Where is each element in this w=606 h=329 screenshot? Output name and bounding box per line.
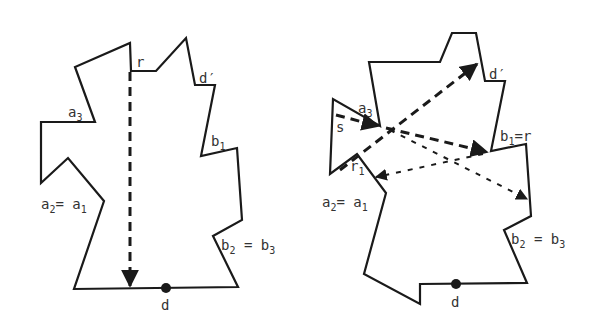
- right-label-d: d: [451, 294, 459, 310]
- left-label-a3: a3: [68, 104, 82, 123]
- right-ray-b1-to-r1: [376, 154, 483, 177]
- left-label-r: r: [136, 54, 144, 70]
- left-label-b2-b3: b2 = b3: [221, 237, 275, 256]
- left-figure: r d′ a3 b1 a2= a1 b2 = b3 d: [41, 38, 275, 313]
- left-label-d-prime: d′: [199, 70, 216, 86]
- right-label-a3: a3: [358, 100, 372, 119]
- left-label-d: d: [161, 297, 169, 313]
- right-label-a2-a1: a2= a1: [322, 194, 368, 213]
- left-label-a2-a1: a2= a1: [41, 196, 87, 215]
- right-ray-a3-to-b1: [386, 128, 487, 152]
- right-ray-r1-to-d-prime: [340, 64, 477, 170]
- left-point-d: [161, 283, 171, 293]
- right-figure: d′ a3 s b1=r r1 a2= a1 b2 = b3 d: [322, 33, 565, 310]
- diagram-canvas: r d′ a3 b1 a2= a1 b2 = b3 d d′ a3 s b1=r: [0, 0, 606, 329]
- left-label-b1: b1: [211, 133, 225, 152]
- right-label-d-prime: d′: [489, 66, 506, 82]
- right-label-s: s: [336, 119, 344, 135]
- right-label-b2-b3: b2 = b3: [511, 231, 565, 250]
- right-point-d: [451, 279, 461, 289]
